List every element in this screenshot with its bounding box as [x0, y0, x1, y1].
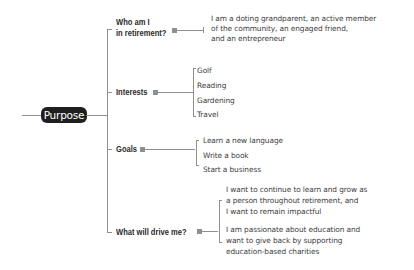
bracket-tick: [193, 116, 196, 117]
leaf-write-book: Write a book: [203, 151, 249, 161]
branch-who-am-i[interactable]: Who am I in retirement?: [116, 17, 166, 39]
leaf-start-business: Start a business: [203, 165, 261, 175]
leaf-golf: Golf: [197, 66, 212, 76]
bracket-tick: [219, 242, 222, 243]
branch-connector: [158, 92, 193, 93]
branch-connector: [177, 30, 203, 31]
branch-goals[interactable]: Goals: [116, 144, 137, 155]
bracket-tick: [219, 200, 222, 201]
leaf-who-2: of the community, an engaged friend,: [211, 24, 348, 34]
root-lead-line: [22, 115, 42, 116]
branch-label-line2: in retirement?: [116, 28, 166, 39]
leaf-drive-2a: I am passionate about education and: [226, 225, 360, 235]
leaf-bracket: [193, 68, 194, 116]
leaf-reading: Reading: [197, 81, 226, 91]
branch-what-will-drive-me[interactable]: What will drive me?: [116, 227, 187, 238]
leaf-drive-1a: I want to continue to learn and grow as: [226, 185, 367, 195]
branch-label-line1: Who am I: [116, 17, 166, 28]
leaf-drive-2b: want to give back by supporting: [226, 236, 342, 246]
branch-interests[interactable]: Interests: [116, 87, 148, 98]
leaf-who-3: and an entrepreneur: [211, 34, 286, 44]
trunk-tick-drive: [107, 232, 112, 233]
leaf-bracket: [196, 140, 197, 165]
trunk-tick-who: [107, 29, 112, 30]
leaf-drive-2c: education-based charities: [226, 247, 319, 257]
leaf-drive-1b: a person throughout retirement, and: [226, 196, 358, 206]
leaf-drive-1c: I want to remain impactful: [226, 207, 321, 217]
bracket-tick: [193, 68, 196, 69]
leaf-bracket: [219, 200, 220, 242]
leaf-travel: Travel: [197, 110, 218, 120]
leaf-gardening: Gardening: [197, 96, 235, 106]
trunk-tick-interests: [107, 92, 112, 93]
trunk-tick-goals: [107, 149, 112, 150]
trunk-line: [107, 29, 108, 233]
branch-connector: [145, 149, 195, 150]
root-to-trunk-line: [86, 115, 107, 116]
leaf-who-1: I am a doting grandparent, an active mem…: [211, 14, 376, 24]
root-node-purpose[interactable]: Purpose: [41, 107, 87, 123]
leaf-learn-language: Learn a new language: [203, 136, 283, 146]
bracket-tick: [196, 140, 199, 141]
leaf-bracket: [203, 27, 204, 33]
bracket-tick: [196, 165, 199, 166]
branch-connector: [202, 231, 218, 232]
